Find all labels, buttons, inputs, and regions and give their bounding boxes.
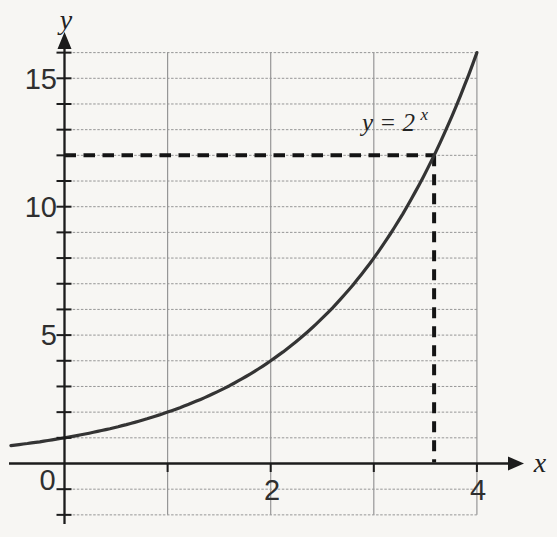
- y-axis: [57, 32, 72, 524]
- x-axis-label: x: [533, 447, 547, 478]
- exponential-graph-figure: y x 15 10 5 0 2 4 y = 2 x: [0, 0, 557, 537]
- x-axis: [9, 457, 524, 473]
- x-tick-label-2: 2: [264, 474, 280, 506]
- exponential-graph-canvas: y x 15 10 5 0 2 4 y = 2 x: [0, 0, 557, 537]
- x-axis-arrowhead-icon: [508, 457, 524, 471]
- curve-equation-base: y = 2: [359, 109, 415, 136]
- y-tick-label-10: 10: [25, 191, 57, 223]
- x-axis-ticks: [168, 464, 477, 473]
- y-axis-label: y: [57, 4, 73, 35]
- y-tick-label-5: 5: [41, 319, 57, 351]
- y-tick-label-15: 15: [25, 63, 57, 95]
- x-tick-label-0: 0: [39, 464, 55, 496]
- dashed-guide-lines: [65, 155, 435, 462]
- curve-equation-exponent: x: [419, 105, 428, 124]
- curve-equation-label: y = 2 x: [359, 105, 428, 136]
- x-tick-label-4: 4: [470, 474, 486, 506]
